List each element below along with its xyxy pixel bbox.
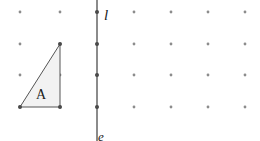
grid-dot (170, 74, 173, 77)
grid-dot (133, 74, 136, 77)
triangle-vertex-dot (58, 105, 62, 109)
grid-dot (207, 43, 210, 46)
grid-dot (59, 11, 62, 14)
triangle-label-a: A (36, 87, 47, 102)
grid-dot (244, 106, 247, 109)
mirror-line-dot (95, 105, 99, 109)
grid-dot (170, 106, 173, 109)
grid-dot (133, 106, 136, 109)
triangle-vertex-dot (58, 42, 62, 46)
grid-dot (19, 74, 22, 77)
grid-dot (207, 11, 210, 14)
geometry-figure-canvas: l A e (0, 0, 260, 141)
mirror-line-label: l (104, 7, 108, 23)
grid-dot (207, 106, 210, 109)
grid-dot (244, 74, 247, 77)
grid-dot (244, 11, 247, 14)
mirror-line-dot (95, 73, 99, 77)
grid-dot (207, 74, 210, 77)
triangle-vertex-dot (18, 105, 22, 109)
clipped-bottom-label: e (98, 129, 104, 141)
grid-dot (19, 43, 22, 46)
grid-dot (133, 11, 136, 14)
figure-svg: l A e (0, 0, 260, 141)
grid-dot (244, 43, 247, 46)
grid-dot (133, 43, 136, 46)
mirror-line-dot (95, 42, 99, 46)
grid-dot (170, 11, 173, 14)
mirror-line-dot (95, 10, 99, 14)
grid-dot (19, 11, 22, 14)
grid-dot (170, 43, 173, 46)
